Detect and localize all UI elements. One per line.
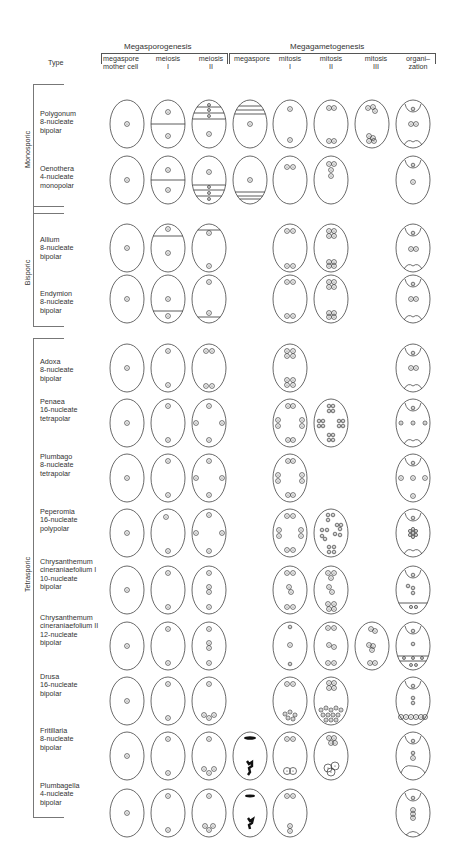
embryo-sac-cell bbox=[273, 344, 307, 392]
embryo-sac-cell bbox=[273, 789, 307, 837]
embryo-sac-cell bbox=[273, 275, 307, 323]
chromosome-mass bbox=[244, 736, 256, 740]
embryo-sac-diagram bbox=[0, 0, 455, 841]
embryo-sac-cell bbox=[192, 224, 226, 272]
embryo-sac-cell bbox=[192, 156, 226, 204]
antipodals bbox=[404, 141, 422, 145]
chromosome-mass bbox=[248, 818, 253, 829]
embryo-sac-cell bbox=[314, 509, 348, 557]
embryo-sac-cell bbox=[192, 509, 226, 557]
embryo-sac-cell bbox=[192, 344, 226, 392]
embryo-sac-cell bbox=[273, 224, 307, 272]
antipodals bbox=[404, 316, 422, 320]
embryo-sac-cell bbox=[273, 622, 307, 670]
embryo-sac-cell bbox=[273, 156, 307, 204]
embryo-sac-cell bbox=[355, 622, 389, 670]
antipodals bbox=[404, 440, 422, 444]
chromosome-mass bbox=[245, 795, 255, 798]
antipodals bbox=[404, 550, 422, 554]
embryo-sac-cell bbox=[355, 100, 389, 148]
antipodals bbox=[404, 385, 422, 389]
antipodals bbox=[406, 832, 420, 836]
chromosome-mass bbox=[247, 761, 252, 775]
embryo-sac-cell bbox=[273, 100, 307, 148]
embryo-sac-cell bbox=[273, 509, 307, 557]
antipodals bbox=[401, 766, 425, 773]
antipodals bbox=[404, 265, 422, 269]
embryo-sac-cell bbox=[273, 454, 307, 502]
embryo-sac-cell bbox=[273, 399, 307, 447]
